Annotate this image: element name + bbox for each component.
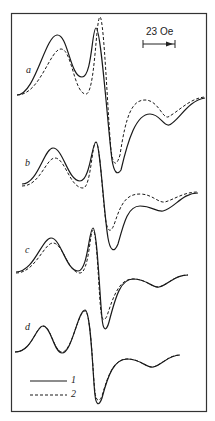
legend-label-2: 2	[71, 388, 76, 399]
epr-spectra-figure	[0, 0, 215, 421]
legend-label-1: 1	[71, 374, 76, 385]
panel-label-a: a	[26, 64, 31, 75]
arrow-right-icon	[166, 42, 173, 47]
curve-c-series-1	[16, 228, 188, 329]
curve-c-series-2	[16, 230, 188, 319]
figure-frame	[12, 14, 207, 412]
curve-a-series-1	[17, 28, 205, 173]
curve-b-series-2	[22, 142, 198, 230]
curve-b-series-1	[22, 142, 198, 250]
legend	[30, 381, 67, 395]
panel-label-c: c	[25, 244, 29, 255]
scale-bar-label: 23 Oe	[146, 26, 173, 37]
panel-label-d: d	[25, 321, 30, 332]
curve-a-series-2	[17, 17, 205, 163]
curve-d-series-1	[15, 310, 180, 404]
panel-label-b: b	[25, 157, 30, 168]
curve-d-series-2	[15, 311, 180, 400]
scale-bar	[143, 40, 175, 48]
